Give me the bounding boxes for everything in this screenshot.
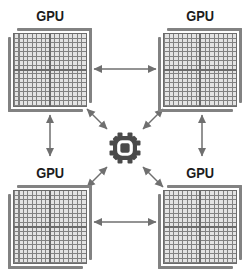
- chip-grid: [13, 33, 87, 107]
- chip-edge-bar: [17, 28, 92, 31]
- chip-edge-bar: [8, 194, 11, 269]
- chip-edge-bar: [158, 37, 161, 112]
- chip-edge-bar: [239, 28, 242, 103]
- chip-edge-bar: [158, 194, 161, 269]
- arrow-topleft-hub: [87, 109, 107, 129]
- gpu-label: GPU: [186, 165, 214, 181]
- chip-edge-bar: [17, 185, 92, 188]
- gpu-label: GPU: [186, 8, 214, 24]
- gpu-node-bottom-left: GPU: [8, 165, 92, 269]
- gpu-topology-diagram: GPU GPU GPU GPU: [0, 0, 250, 276]
- gpu-die-icon: [158, 28, 242, 112]
- gpu-node-bottom-right: GPU: [158, 165, 242, 269]
- gpu-label: GPU: [36, 8, 64, 24]
- chip-edge-bar: [89, 28, 92, 103]
- gpu-die-icon: [158, 185, 242, 269]
- hub-node: [107, 130, 143, 166]
- chip-edge-bar: [167, 28, 242, 31]
- gpu-node-top-left: GPU: [8, 8, 92, 112]
- chip-grid: [163, 190, 237, 264]
- chip-edge-bar: [239, 185, 242, 260]
- chip-edge-bar: [8, 266, 83, 269]
- gpu-die-icon: [8, 28, 92, 112]
- chip-edge-bar: [158, 266, 233, 269]
- gpu-label: GPU: [36, 165, 64, 181]
- chip-edge-bar: [89, 185, 92, 260]
- chip-grid: [13, 190, 87, 264]
- chip-edge-bar: [167, 185, 242, 188]
- chip-grid: [163, 33, 237, 107]
- chip-edge-bar: [8, 37, 11, 112]
- arrow-topright-hub: [143, 109, 163, 129]
- gpu-die-icon: [8, 185, 92, 269]
- gpu-node-top-right: GPU: [158, 8, 242, 112]
- chip-edge-bar: [158, 109, 233, 112]
- chip-edge-bar: [8, 109, 83, 112]
- gear-chip-icon: [107, 130, 143, 166]
